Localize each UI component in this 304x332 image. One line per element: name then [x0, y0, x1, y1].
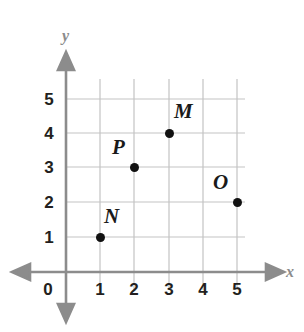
y-tick-label-4: 4 [40, 125, 58, 142]
y-axis [58, 52, 74, 322]
x-tick-label-3: 3 [160, 281, 178, 298]
x-axis-arrow-left [12, 264, 30, 280]
data-point-label-N: N [104, 206, 119, 227]
x-axis [12, 264, 284, 280]
data-point-P [130, 163, 139, 172]
data-point-label-M: M [174, 101, 193, 122]
coordinate-plane-figure: 5 4 3 2 1 1 2 3 4 5 0 y x M P N O [0, 0, 304, 332]
x-tick-label-1: 1 [91, 281, 109, 298]
data-point-O [233, 198, 242, 207]
y-tick-label-1: 1 [40, 229, 58, 246]
data-point-M [165, 129, 174, 138]
x-tick-label-2: 2 [125, 281, 143, 298]
x-axis-arrow-right [266, 264, 284, 280]
y-tick-label-3: 3 [40, 159, 58, 176]
origin-label: 0 [39, 281, 57, 298]
y-axis-arrow-up [58, 52, 74, 70]
data-point-label-O: O [213, 172, 228, 193]
x-tick-label-5: 5 [228, 281, 246, 298]
y-axis-arrow-down [58, 304, 74, 322]
x-tick-label-4: 4 [194, 281, 212, 298]
horizontal-gridlines [66, 99, 245, 237]
y-axis-label: y [62, 28, 69, 44]
data-point-label-P: P [112, 137, 125, 158]
y-tick-label-5: 5 [40, 91, 58, 108]
data-point-N [96, 233, 105, 242]
x-axis-label: x [286, 264, 294, 280]
y-tick-label-2: 2 [40, 194, 58, 211]
